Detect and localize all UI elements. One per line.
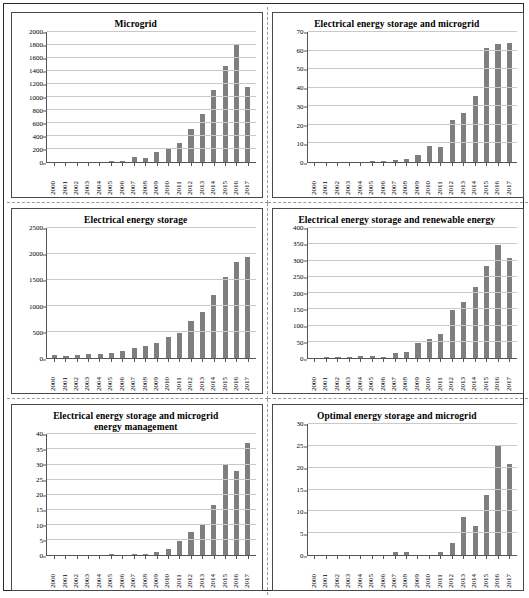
x-tick-slot: 2000 xyxy=(309,359,320,391)
y-tick-label: 400 xyxy=(293,225,304,232)
bar-slot xyxy=(49,434,60,555)
x-tick-slot: 2005 xyxy=(105,556,116,588)
y-tick-label: 1000 xyxy=(29,94,43,101)
x-tick-slot: 2010 xyxy=(423,359,434,391)
x-tick-label: 2004 xyxy=(96,363,103,391)
x-tick-label: 2008 xyxy=(142,167,149,195)
x-tick-slot: 2017 xyxy=(242,163,253,195)
y-tick-label: 500 xyxy=(33,329,44,336)
x-tick-slot: 2014 xyxy=(469,359,480,391)
bar-slot xyxy=(321,424,332,555)
x-tick-slot: 2000 xyxy=(48,359,59,391)
x-tick-label: 2005 xyxy=(107,363,114,391)
gridline xyxy=(47,109,256,110)
x-tick-label: 2014 xyxy=(471,560,478,588)
x-tick-label: 2008 xyxy=(142,363,149,391)
x-tick-slot: 2017 xyxy=(242,359,253,391)
x-tick-label: 2016 xyxy=(494,560,501,588)
x-tick-slot: 2015 xyxy=(219,163,230,195)
x-tick-slot: 2007 xyxy=(128,359,139,391)
bar xyxy=(52,355,57,358)
bar xyxy=(154,552,159,555)
x-tick-label: 2001 xyxy=(62,167,69,195)
x-tick-slot: 2004 xyxy=(354,359,365,391)
x-tick-slot: 2012 xyxy=(446,556,457,588)
y-tick-label: 250 xyxy=(293,274,304,281)
bar xyxy=(177,143,182,162)
bar xyxy=(370,161,375,162)
bar-slot xyxy=(163,32,174,162)
bar xyxy=(234,471,239,555)
plot-wrap-5: 0510152025303540 xyxy=(16,434,256,556)
bar-slot xyxy=(424,228,435,358)
y-tick-label: 2000 xyxy=(29,251,43,258)
bar xyxy=(461,302,466,358)
x-tick-label: 2009 xyxy=(153,560,160,588)
gridline xyxy=(308,532,518,533)
x-tick-slot: 2001 xyxy=(59,163,70,195)
x-tick-label: 2003 xyxy=(84,167,91,195)
x-tick-label: 2000 xyxy=(311,167,318,195)
x-tick-label: 2002 xyxy=(334,560,341,588)
gridline xyxy=(47,135,256,136)
y-tick-label: 1200 xyxy=(29,81,43,88)
x-tick-label: 2009 xyxy=(414,167,421,195)
x-tick-slot: 2017 xyxy=(503,359,514,391)
x-tick-label: 2014 xyxy=(210,560,217,588)
y-tick-label: 200 xyxy=(293,290,304,297)
chart-title-line: Electrical energy storage and microgrid xyxy=(18,411,254,422)
x-tick-slot: 2014 xyxy=(208,556,219,588)
x-tick-label: 2003 xyxy=(345,560,352,588)
gridline xyxy=(47,479,256,480)
x-tick-slot: 2012 xyxy=(185,359,196,391)
x-tick-slot: 2000 xyxy=(48,556,59,588)
bar-slot xyxy=(378,424,389,555)
x-tick-slot: 2007 xyxy=(128,163,139,195)
x-tick-label: 2014 xyxy=(210,167,217,195)
x-tick-label: 2017 xyxy=(244,560,251,588)
gridline xyxy=(308,124,518,125)
bar-slot xyxy=(185,32,196,162)
bar-slot xyxy=(163,228,174,358)
bar-slot xyxy=(481,424,492,555)
bar xyxy=(404,159,409,162)
bar xyxy=(438,147,443,162)
x-tick-slot: 2006 xyxy=(117,359,128,391)
x-tick-slot: 2013 xyxy=(196,163,207,195)
x-tick-label: 2015 xyxy=(222,363,229,391)
x-labels-1: 2000200120022003200420052006200720082009… xyxy=(46,163,256,195)
chart-cell-5: Electrical energy storage and microgride… xyxy=(7,399,268,595)
y-tick-label: 150 xyxy=(293,306,304,313)
chart-panel-ees-microgrid-ems: Electrical energy storage and microgride… xyxy=(11,404,263,591)
bar-slot xyxy=(174,228,185,358)
bar xyxy=(347,357,352,358)
bar xyxy=(166,149,171,162)
x-tick-label: 2014 xyxy=(471,167,478,195)
bar-slot xyxy=(94,228,105,358)
x-tick-label: 2010 xyxy=(164,167,171,195)
x-tick-label: 2012 xyxy=(187,167,194,195)
x-labels-5: 2000200120022003200420052006200720082009… xyxy=(46,556,256,588)
x-tick-label: 2012 xyxy=(448,560,455,588)
bar-slot xyxy=(219,434,230,555)
bar-slot xyxy=(140,228,151,358)
x-tick-label: 2012 xyxy=(448,167,455,195)
bar-slot xyxy=(151,434,162,555)
x-tick-label: 2003 xyxy=(84,560,91,588)
bar xyxy=(484,495,489,555)
x-tick-slot: 2008 xyxy=(400,163,411,195)
x-tick-label: 2003 xyxy=(345,363,352,391)
x-tick-slot: 2000 xyxy=(309,163,320,195)
bar-slot xyxy=(106,32,117,162)
bar-slot xyxy=(185,228,196,358)
x-tick-label: 2015 xyxy=(222,167,229,195)
x-tick-slot: 2012 xyxy=(446,359,457,391)
x-tick-label: 2014 xyxy=(210,363,217,391)
x-tick-slot: 2013 xyxy=(196,359,207,391)
x-tick-label: 2016 xyxy=(233,363,240,391)
x-tick-label: 2009 xyxy=(414,363,421,391)
x-tick-slot: 2015 xyxy=(219,359,230,391)
gridline xyxy=(308,68,518,69)
x-tick-slot: 2007 xyxy=(389,163,400,195)
bars-1 xyxy=(47,32,256,162)
